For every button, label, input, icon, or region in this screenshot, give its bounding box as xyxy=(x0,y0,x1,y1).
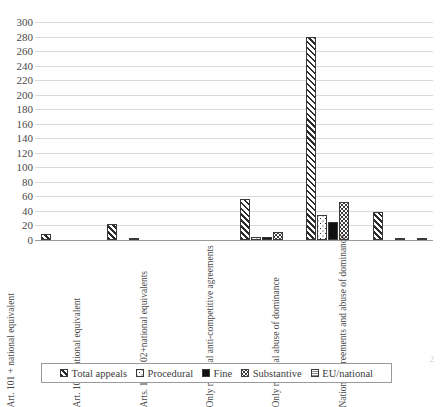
y-axis-tick-200: 200 xyxy=(1,89,33,100)
bar-group-2 xyxy=(101,22,167,240)
x-axis-label-text: National agreements and abuse of dominan… xyxy=(337,299,348,407)
x-axis-label-1: Art. 101 + national equivalent xyxy=(58,299,69,407)
bar-total-appeals-g4[interactable] xyxy=(240,199,250,240)
caption-sliver xyxy=(40,0,400,4)
y-axis-tick-260: 260 xyxy=(1,46,33,57)
y-axis-tick-160: 160 xyxy=(1,118,33,129)
diagonal-hatch-swatch xyxy=(60,369,68,377)
x-axis-baseline xyxy=(35,240,433,241)
x-axis-label-4: Only national anti-competitive agreement… xyxy=(257,299,268,407)
x-axis-label-3: Arts. 101+102+national equivalents xyxy=(190,299,201,407)
solid-black-swatch xyxy=(202,369,210,377)
x-axis-label-text: Art. 102+national equivalent xyxy=(72,299,83,407)
x-label-cell-6: National agreements and abuse of dominan… xyxy=(367,243,433,355)
y-axis-tick-20: 20 xyxy=(1,220,33,231)
bar-fine-g4[interactable] xyxy=(262,237,272,240)
legend-label: Procedural xyxy=(148,368,193,379)
legend-label: Fine xyxy=(214,368,233,379)
bar-eu-national-g6[interactable] xyxy=(417,238,427,240)
y-axis-tick-100: 100 xyxy=(1,162,33,173)
bar-group-1 xyxy=(35,22,101,240)
page-number: 2 xyxy=(430,354,435,364)
bar-group-5 xyxy=(300,22,366,240)
y-axis-tick-120: 120 xyxy=(1,147,33,158)
y-axis: 3002802602402202001801601401201008060402… xyxy=(0,22,33,241)
x-label-cell-2: Art. 102+national equivalent xyxy=(101,243,167,355)
y-axis-tick-300: 300 xyxy=(1,17,33,28)
y-axis-tick-280: 280 xyxy=(1,31,33,42)
y-axis-tick-140: 140 xyxy=(1,133,33,144)
y-axis-tick-240: 240 xyxy=(1,60,33,71)
bar-total-appeals-g2[interactable] xyxy=(107,224,117,240)
bar-fine-g2[interactable] xyxy=(129,238,139,240)
legend-item-fine[interactable]: Fine xyxy=(202,368,232,379)
x-axis-label-6: National agreements and abuse of dominan… xyxy=(389,299,400,407)
x-label-cell-4: Only national anti-competitive agreement… xyxy=(234,243,300,355)
legend-item-eu-national[interactable]: EU/national xyxy=(311,368,373,379)
bar-fine-g6[interactable] xyxy=(395,238,405,240)
x-axis-label-text: Only national anti-competitive agreement… xyxy=(205,299,216,407)
legend-item-procedural[interactable]: Procedural xyxy=(136,368,193,379)
x-label-cell-3: Arts. 101+102+national equivalents xyxy=(168,243,234,355)
x-axis-label-text: Art. 101 + national equivalent xyxy=(6,299,17,407)
x-axis-label-text: Arts. 101+102+national equivalents xyxy=(138,299,149,407)
x-axis-label-5: Only national abuse of dominance xyxy=(323,299,334,407)
bar-total-appeals-g6[interactable] xyxy=(373,212,383,240)
x-label-cell-1: Art. 101 + national equivalent xyxy=(35,243,101,355)
y-axis-tick-0: 0 xyxy=(1,235,33,246)
x-label-cell-5: Only national abuse of dominance xyxy=(300,243,366,355)
bar-groups xyxy=(35,22,433,240)
bar-substantive-g4[interactable] xyxy=(273,232,283,240)
bar-group-6 xyxy=(367,22,433,240)
x-axis-labels: Art. 101 + national equivalentArt. 102+n… xyxy=(35,243,433,355)
bar-group-4 xyxy=(234,22,300,240)
y-axis-tick-220: 220 xyxy=(1,75,33,86)
bar-total-appeals-g1[interactable] xyxy=(41,234,51,240)
coarse-dots-swatch xyxy=(136,369,144,377)
legend-label: EU/national xyxy=(322,368,373,379)
bar-total-appeals-g5[interactable] xyxy=(306,37,316,240)
bar-procedural-g5[interactable] xyxy=(317,215,327,240)
fine-dots-swatch xyxy=(241,369,249,377)
legend-item-substantive[interactable]: Substantive xyxy=(241,368,302,379)
legend-label: Substantive xyxy=(253,368,302,379)
y-axis-tick-80: 80 xyxy=(1,176,33,187)
legend-item-total-appeals[interactable]: Total appeals xyxy=(60,368,127,379)
bar-procedural-g4[interactable] xyxy=(251,237,261,240)
grey-grid-swatch xyxy=(311,369,319,377)
bar-group-3 xyxy=(168,22,234,240)
x-axis-label-text: Only national abuse of dominance xyxy=(271,299,282,407)
x-axis-label-2: Art. 102+national equivalent xyxy=(124,299,135,407)
y-axis-tick-40: 40 xyxy=(1,205,33,216)
chart-legend: Total appealsProceduralFineSubstantiveEU… xyxy=(41,363,392,383)
legend-label: Total appeals xyxy=(72,368,128,379)
y-axis-tick-60: 60 xyxy=(1,191,33,202)
y-axis-tick-180: 180 xyxy=(1,104,33,115)
